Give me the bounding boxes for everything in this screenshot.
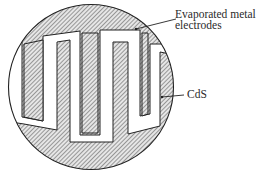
electrodes-label-line2: electrodes xyxy=(175,20,222,31)
cds-label: CdS xyxy=(187,89,207,100)
cds-cell-diagram xyxy=(0,0,264,174)
